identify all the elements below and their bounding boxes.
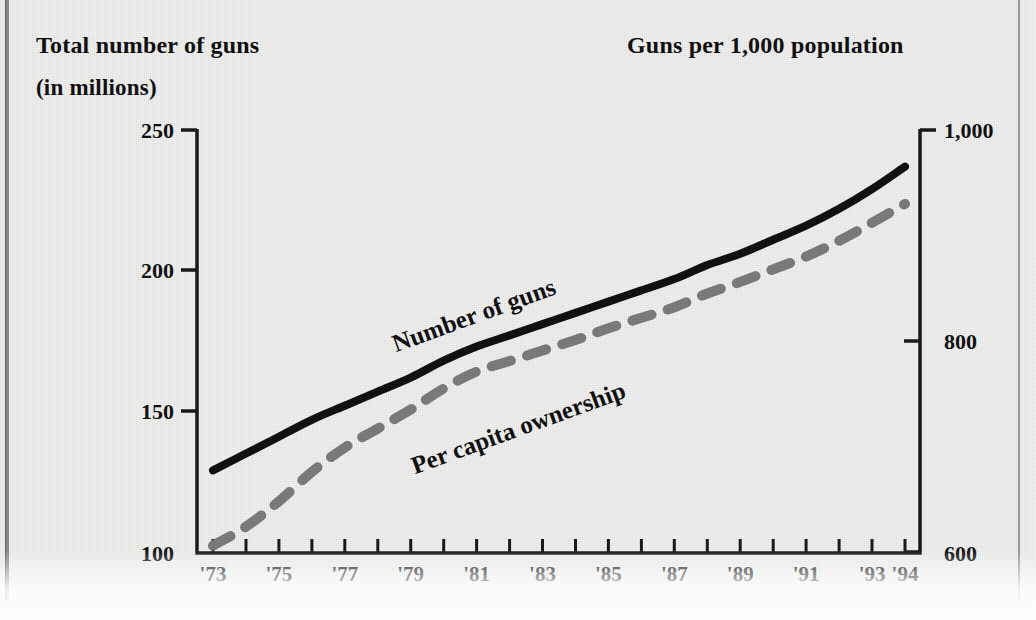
x-axis-ticks (213, 539, 905, 553)
x-axis-tick-label: '89 (717, 562, 763, 587)
series-line-per-capita-ownership (213, 204, 905, 546)
x-axis-tick-label: '77 (322, 562, 368, 587)
x-axis-tick-label: '83 (520, 562, 566, 587)
x-axis-tick-label: '73 (190, 562, 236, 587)
right-tick-label-600: 600 (944, 541, 1024, 567)
x-axis-tick-label: '79 (388, 562, 434, 587)
chart-page: Total number of guns (in millions) Guns … (0, 0, 1036, 620)
x-axis-tick-label: '81 (454, 562, 500, 587)
right-tick-label-1000: 1,000 (944, 118, 1024, 144)
x-axis-tick-label: '85 (585, 562, 631, 587)
left-tick-label-100: 100 (104, 541, 174, 567)
x-axis-tick-label: '94 (882, 562, 928, 587)
left-tick-label-150: 150 (104, 399, 174, 425)
left-tick-label-250: 250 (104, 118, 174, 144)
x-axis-tick-label: '75 (256, 562, 302, 587)
x-axis-tick-label: '87 (651, 562, 697, 587)
right-tick-label-800: 800 (944, 329, 1024, 355)
left-axis-ticks (181, 130, 197, 411)
left-tick-label-200: 200 (104, 258, 174, 284)
x-axis-tick-label: '91 (783, 562, 829, 587)
